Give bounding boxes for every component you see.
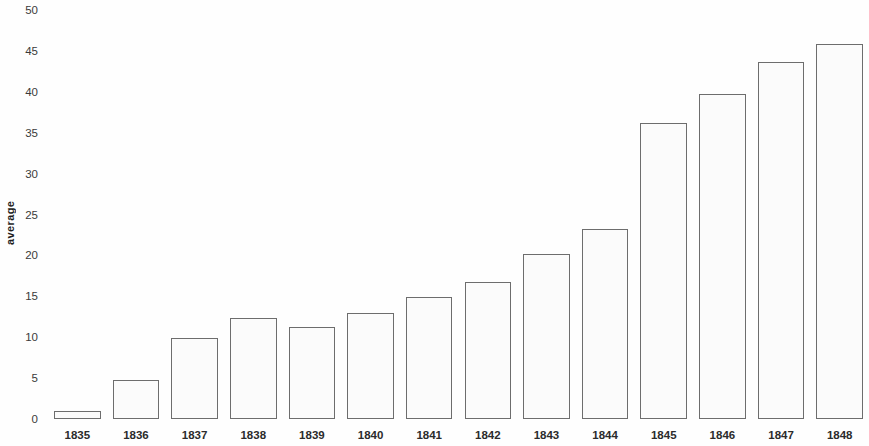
bar-slot	[283, 0, 342, 421]
x-axis-tick-label: 1848	[827, 429, 853, 441]
bar	[347, 313, 394, 419]
bar	[230, 318, 277, 419]
x-axis-tick-label: 1836	[123, 429, 149, 441]
bar-slot	[810, 0, 869, 421]
bar-slot	[517, 0, 576, 421]
x-axis-tick-label: 1844	[592, 429, 618, 441]
bar-slot	[341, 0, 400, 421]
bar	[582, 229, 629, 419]
y-axis-tick-label: 25	[25, 209, 38, 221]
y-axis-ticks: 05101520253035404550	[0, 0, 48, 446]
bar	[465, 282, 512, 419]
x-axis-tick-label: 1835	[65, 429, 91, 441]
y-axis-tick-label: 35	[25, 127, 38, 139]
bar-slot	[165, 0, 224, 421]
bar	[640, 123, 687, 419]
bar	[54, 411, 101, 419]
bar	[113, 380, 160, 419]
bar-slot	[400, 0, 459, 421]
y-axis-tick-label: 45	[25, 45, 38, 57]
bar	[171, 338, 218, 419]
x-axis-tick-label: 1839	[299, 429, 325, 441]
bar	[523, 254, 570, 419]
bar	[816, 44, 863, 419]
bar-slot	[693, 0, 752, 421]
bar-slot	[634, 0, 693, 421]
y-axis-tick-label: 30	[25, 168, 38, 180]
x-axis-tick-label: 1847	[768, 429, 794, 441]
bar	[406, 297, 453, 419]
x-axis-tick-label: 1842	[475, 429, 501, 441]
x-axis-tick-label: 1841	[416, 429, 442, 441]
x-axis-tick-label: 1838	[240, 429, 266, 441]
y-axis-tick-label: 10	[25, 331, 38, 343]
x-axis-tick-label: 1840	[358, 429, 384, 441]
bar-slot	[48, 0, 107, 421]
bar-slot	[107, 0, 166, 421]
y-axis-tick-label: 0	[32, 413, 38, 425]
x-axis-tick-label: 1837	[182, 429, 208, 441]
bar-slot	[459, 0, 518, 421]
bar-slot	[224, 0, 283, 421]
x-axis-tick-label: 1846	[710, 429, 736, 441]
bar-slot	[576, 0, 635, 421]
bar	[758, 62, 805, 419]
bar-chart: average 05101520253035404550 18351836183…	[0, 0, 869, 446]
y-axis-tick-label: 50	[25, 4, 38, 16]
y-axis-tick-label: 5	[32, 372, 38, 384]
x-axis-ticks: 1835183618371838183918401841184218431844…	[48, 421, 869, 446]
y-axis-tick-label: 20	[25, 249, 38, 261]
x-axis-tick-label: 1843	[534, 429, 560, 441]
plot-area	[48, 0, 869, 421]
y-axis-tick-label: 40	[25, 86, 38, 98]
bar	[289, 327, 336, 419]
bar	[699, 94, 746, 419]
y-axis-tick-label: 15	[25, 290, 38, 302]
bar-slot	[752, 0, 811, 421]
x-axis-tick-label: 1845	[651, 429, 677, 441]
